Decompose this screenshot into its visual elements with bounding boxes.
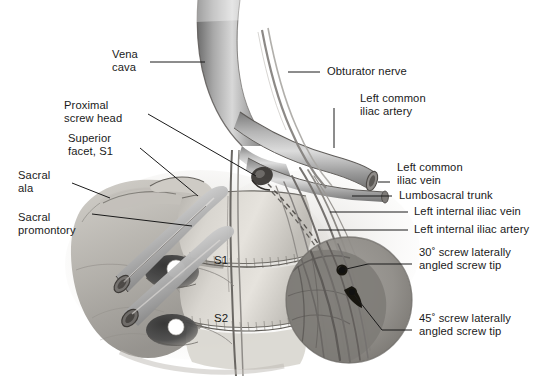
label-proximal-screw-head: Proximal screw head — [64, 99, 122, 125]
label-vertebra-s1: S1 — [214, 254, 228, 267]
label-screw-45-degree: 45˚ screw laterally angled screw tip — [419, 312, 511, 338]
label-lumbosacral-trunk: Lumbosacral trunk — [399, 189, 493, 202]
label-left-common-iliac-artery: Left common iliac artery — [360, 92, 426, 118]
label-obturator-nerve: Obturator nerve — [327, 65, 407, 78]
label-left-internal-iliac-artery: Left internal iliac artery — [414, 223, 529, 236]
label-superior-facet-s1: Superior facet, S1 — [68, 132, 113, 158]
label-vena-cava: Vena cava — [112, 48, 138, 74]
label-screw-30-degree: 30˚ screw laterally angled screw tip — [419, 246, 511, 272]
label-sacral-promontory: Sacral promontory — [18, 211, 76, 237]
label-vertebra-s2: S2 — [214, 312, 228, 325]
anatomical-figure: Vena cava Proximal screw head Superior f… — [0, 0, 545, 391]
label-sacral-ala: Sacral ala — [18, 169, 50, 195]
label-left-common-iliac-vein: Left common iliac vein — [397, 161, 463, 187]
label-left-internal-iliac-vein: Left internal iliac vein — [414, 205, 521, 218]
